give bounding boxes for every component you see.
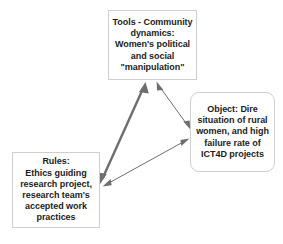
- edge-tools-rules: [97, 82, 149, 184]
- node-object-label: Object: Dire situation of rural women, a…: [191, 104, 274, 160]
- edge-tools-object-line: [160, 87, 188, 125]
- edge-rules-object-line: [108, 142, 184, 184]
- edge-rules-object: [103, 139, 190, 187]
- edge-tools-rules-line: [103, 88, 144, 179]
- diagram-canvas: Tools - Community dynamics: Women's poli…: [0, 0, 283, 244]
- node-rules-label: Rules: Ethics guiding research project, …: [13, 156, 99, 223]
- node-tools-label: Tools - Community dynamics: Women's poli…: [109, 17, 196, 73]
- node-rules: Rules: Ethics guiding research project, …: [12, 152, 100, 228]
- edge-tools-object-arrowhead-tools: [157, 82, 164, 91]
- edge-rules-object-arrowhead-object: [180, 139, 189, 147]
- edge-rules-object-arrowhead-rules: [103, 179, 112, 187]
- node-tools: Tools - Community dynamics: Women's poli…: [108, 10, 197, 80]
- node-object: Object: Dire situation of rural women, a…: [190, 92, 275, 172]
- edge-tools-rules-arrowhead-tools: [139, 82, 149, 94]
- edge-tools-object: [157, 82, 191, 130]
